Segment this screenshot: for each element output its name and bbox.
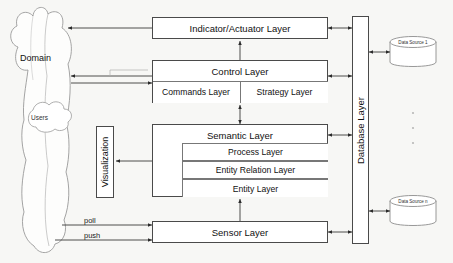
- users-cloud-label: Users: [31, 114, 48, 121]
- indicator-actuator-layer-box[interactable]: Indicator/Actuator Layer: [152, 17, 328, 39]
- visualization-label: Visualization: [100, 137, 110, 187]
- entity-layer-box[interactable]: Entity Layer: [182, 179, 328, 197]
- commands-layer-box[interactable]: Commands Layer: [153, 81, 241, 103]
- strategy-layer-box[interactable]: Strategy Layer: [240, 81, 328, 103]
- data-source-ellipsis: [412, 112, 414, 144]
- semantic-layer-title: Semantic Layer: [153, 125, 327, 145]
- sensor-layer-box[interactable]: Sensor Layer: [152, 221, 328, 243]
- database-layer-label: Database Layer: [355, 96, 366, 163]
- data-source-n-label: Data Source n: [393, 199, 433, 204]
- control-layer-title: Control Layer: [153, 61, 327, 82]
- visualization-box[interactable]: Visualization: [96, 126, 114, 198]
- database-layer-box[interactable]: Database Layer: [352, 16, 369, 244]
- domain-cloud-label: Domain: [20, 53, 51, 63]
- push-edge-label: push: [84, 231, 100, 240]
- entity-relation-layer-box[interactable]: Entity Relation Layer: [182, 161, 328, 179]
- architecture-diagram: Domain Users Indicator/Actuator Layer Co…: [0, 0, 453, 263]
- poll-edge-label: poll: [84, 216, 96, 225]
- data-source-1-label: Data Source 1: [393, 40, 433, 45]
- process-layer-box[interactable]: Process Layer: [182, 143, 328, 161]
